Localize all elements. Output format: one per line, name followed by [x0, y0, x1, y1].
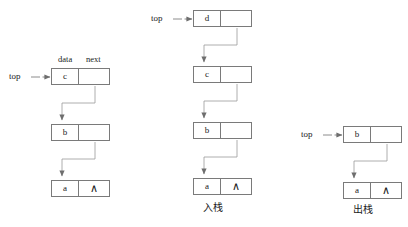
node-initial-1: b — [51, 124, 110, 141]
node-data-cell: b — [344, 127, 371, 142]
node-push-2: b — [193, 122, 252, 139]
node-data-cell: a — [194, 179, 221, 194]
node-next-cell: ∧ — [221, 179, 251, 194]
field-label-data: data — [58, 55, 72, 64]
node-next-cell — [221, 67, 251, 82]
node-data-cell: c — [194, 67, 221, 82]
node-next-cell: ∧ — [79, 181, 109, 196]
node-push-1: c — [193, 66, 252, 83]
node-next-cell: ∧ — [371, 183, 401, 198]
node-next-cell — [79, 69, 109, 84]
link-push-d-to-c — [204, 28, 237, 62]
link-initial-c-to-b — [62, 86, 95, 120]
node-next-cell — [79, 125, 109, 140]
node-push-0: d — [193, 10, 252, 27]
pointer-label-pop: top — [301, 130, 313, 139]
caption-pop: 出栈 — [353, 205, 373, 215]
node-next-cell — [221, 123, 251, 138]
node-next-cell — [371, 127, 401, 142]
node-data-cell: a — [344, 183, 371, 198]
pointer-label-initial: top — [9, 72, 21, 81]
node-push-3: a ∧ — [193, 178, 252, 195]
node-data-cell: b — [194, 123, 221, 138]
node-initial-0: c — [51, 68, 110, 85]
diagram-canvas: data next top c b a ∧ top d c b a ∧ 入栈 t… — [0, 0, 408, 227]
node-data-cell: a — [52, 181, 79, 196]
node-next-cell — [221, 11, 251, 26]
node-pop-0: b — [343, 126, 402, 143]
node-data-cell: d — [194, 11, 221, 26]
node-initial-2: a ∧ — [51, 180, 110, 197]
field-label-next: next — [86, 55, 101, 64]
node-pop-1: a ∧ — [343, 182, 402, 199]
link-push-b-to-a — [204, 140, 237, 174]
link-pop-b-to-a — [354, 144, 387, 178]
node-data-cell: c — [52, 69, 79, 84]
link-initial-b-to-a — [62, 142, 95, 176]
pointer-label-push: top — [151, 14, 163, 23]
node-data-cell: b — [52, 125, 79, 140]
link-push-c-to-b — [204, 84, 237, 118]
caption-push: 入栈 — [203, 203, 223, 213]
